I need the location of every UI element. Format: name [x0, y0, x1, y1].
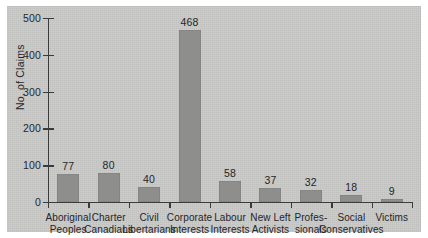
bar[interactable]	[340, 195, 362, 202]
x-tick-mark	[169, 202, 170, 208]
y-tick-label: 200	[23, 122, 41, 134]
bar-value-label: 37	[264, 174, 276, 186]
y-tick-mark	[43, 165, 54, 166]
x-tick-mark	[372, 202, 373, 208]
x-tick-mark	[331, 202, 332, 208]
x-tick-mark	[250, 202, 251, 208]
y-tick-mark	[43, 92, 54, 93]
x-axis-line	[48, 202, 412, 203]
y-tick-label: 0	[35, 196, 41, 208]
y-tick-label: 300	[23, 86, 41, 98]
x-category-label-line: Conservatives	[319, 224, 384, 236]
bar-value-label: 32	[305, 176, 317, 188]
bar[interactable]	[381, 199, 403, 202]
x-category-label: Victims	[375, 212, 408, 224]
x-tick-mark	[210, 202, 211, 208]
bar[interactable]	[219, 181, 241, 202]
x-tick-mark	[129, 202, 130, 208]
x-category-label: SocialConservatives	[319, 212, 384, 237]
bar[interactable]	[300, 190, 322, 202]
plot-area: 0100200300400500 778040468583732189 Abor…	[48, 18, 412, 202]
x-category-label: CorporateInterests	[167, 212, 212, 237]
y-tick-mark	[43, 55, 54, 56]
x-tick-mark	[291, 202, 292, 208]
x-category-label: LabourInterests	[210, 212, 249, 237]
bar[interactable]	[98, 173, 120, 202]
x-category-label-line: Victims	[375, 212, 408, 224]
bar-value-label: 9	[389, 185, 395, 197]
bar-value-label: 80	[103, 159, 115, 171]
x-category-label-line: New Left	[250, 212, 290, 224]
x-tick-mark	[48, 202, 49, 208]
x-category-label: New LeftActivists	[250, 212, 290, 237]
bar-value-label: 77	[62, 160, 74, 172]
y-axis-line	[48, 18, 49, 202]
x-category-label-line: Social	[319, 212, 384, 224]
bar-value-label: 468	[180, 16, 198, 28]
x-tick-mark	[88, 202, 89, 208]
x-category-label-line: Interests	[210, 224, 249, 236]
y-tick-label: 100	[23, 159, 41, 171]
x-category-label-line: Labour	[210, 212, 249, 224]
x-tick-mark	[412, 202, 413, 208]
y-tick-mark	[43, 18, 54, 19]
bar-value-label: 40	[143, 173, 155, 185]
y-tick-label: 400	[23, 49, 41, 61]
bar[interactable]	[179, 30, 201, 202]
bar[interactable]	[259, 188, 281, 202]
y-tick-label: 500	[23, 12, 41, 24]
bar[interactable]	[138, 187, 160, 202]
x-category-label-line: Interests	[167, 224, 212, 236]
bar[interactable]	[57, 174, 79, 202]
figure: No. of Claims 0100200300400500 778040468…	[0, 0, 428, 238]
bar-value-label: 18	[345, 181, 357, 193]
x-category-label-line: Activists	[250, 224, 290, 236]
bar-value-label: 58	[224, 167, 236, 179]
y-tick-mark	[43, 128, 54, 129]
x-category-label-line: Corporate	[167, 212, 212, 224]
